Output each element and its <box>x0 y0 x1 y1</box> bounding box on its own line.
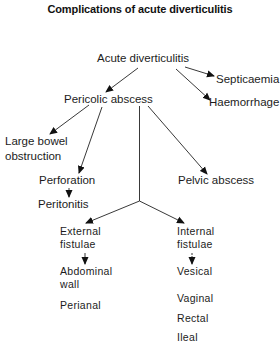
edge-pericolic-lbo <box>50 105 89 134</box>
node-external-fistulae: External fistulae <box>60 225 101 250</box>
node-pelvic-abscess: Pelvic abscess <box>178 174 254 187</box>
node-lbo-line1: Large bowel <box>5 135 68 148</box>
node-haemorrhage: Haemorrhage <box>209 96 279 109</box>
node-rectal: Rectal <box>177 312 209 325</box>
node-internal-line2: fistulae <box>177 238 214 251</box>
node-abdominal-line2: wall <box>60 278 112 291</box>
edge-acute-pericolic <box>106 68 138 92</box>
node-septicaemia: Septicaemia <box>216 73 279 86</box>
node-peritonitis: Peritonitis <box>38 198 89 211</box>
node-abdominal-wall: Abdominal wall <box>60 265 112 290</box>
edge-pericolic-pelvic <box>148 106 207 174</box>
node-acute-diverticulitis: Acute diverticulitis <box>97 52 189 65</box>
node-ileal: Ileal <box>177 331 198 344</box>
node-external-line2: fistulae <box>60 238 101 251</box>
node-external-line1: External <box>60 225 101 238</box>
node-large-bowel-obstruction: Large bowel obstruction <box>5 135 68 163</box>
edge-acute-septicaemia <box>185 67 214 76</box>
node-internal-fistulae: Internal fistulae <box>177 225 214 250</box>
edge-trunk-internal <box>140 201 185 223</box>
node-vaginal: Vaginal <box>177 292 213 305</box>
edge-pericolic-perforation <box>79 107 102 173</box>
edge-trunk-external <box>86 201 140 223</box>
node-lbo-line2: obstruction <box>5 150 68 163</box>
node-vesical: Vesical <box>177 265 212 278</box>
edge-acute-haemorrhage <box>176 69 210 100</box>
node-abdominal-line1: Abdominal <box>60 265 112 278</box>
node-internal-line1: Internal <box>177 225 214 238</box>
node-perianal: Perianal <box>60 299 101 312</box>
node-perforation: Perforation <box>39 174 95 187</box>
node-pericolic-abscess: Pericolic abscess <box>64 93 153 106</box>
